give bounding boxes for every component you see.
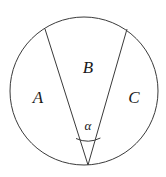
right-chord [88, 29, 127, 165]
region-label-b: B [83, 59, 93, 76]
angle-label-alpha: α [85, 119, 92, 132]
geometry-figure: A B C α [0, 0, 166, 177]
region-label-a: A [33, 89, 43, 106]
left-chord [45, 29, 88, 165]
figure-canvas [0, 0, 166, 177]
region-label-c: C [128, 89, 139, 106]
